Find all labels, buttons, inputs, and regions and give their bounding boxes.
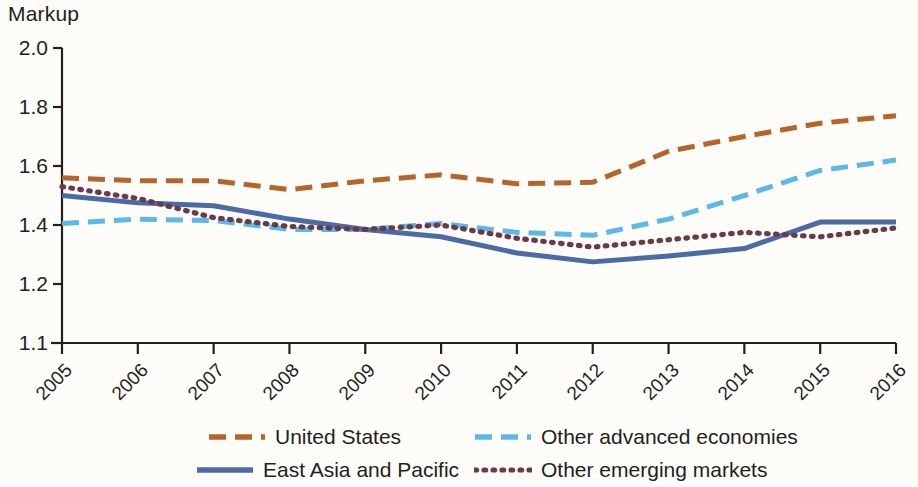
legend-label-united-states: United States [275,425,401,449]
markup-line-chart: Markup 2.01.81.61.41.21.1 20052006200720… [0,0,918,487]
legend-swatch-other-advanced-economies-icon [474,429,532,445]
series-line-united-states [62,116,896,190]
legend-swatch-united-states-icon [208,429,266,445]
legend-swatch-other-emerging-markets-icon [474,462,532,478]
legend-item-united-states[interactable]: United States [208,422,401,452]
x-axis-ticks [62,343,896,354]
legend-label-east-asia-and-pacific: East Asia and Pacific [263,458,459,482]
legend-item-other-advanced-economies[interactable]: Other advanced economies [474,422,798,452]
legend-label-other-emerging-markets: Other emerging markets [541,458,767,482]
chart-legend: United StatesOther advanced economiesEas… [0,418,918,487]
axis-lines [62,48,896,343]
legend-swatch-east-asia-and-pacific-icon [196,462,254,478]
plot-area [0,0,918,487]
legend-item-east-asia-and-pacific[interactable]: East Asia and Pacific [196,455,459,485]
legend-label-other-advanced-economies: Other advanced economies [541,425,798,449]
series-line-other-advanced-economies [62,160,896,235]
legend-item-other-emerging-markets[interactable]: Other emerging markets [474,455,767,485]
data-series-group [62,116,896,262]
y-axis-ticks [51,48,62,343]
